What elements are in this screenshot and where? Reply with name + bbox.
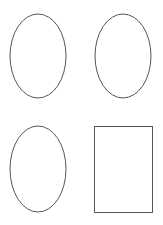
ellipse-top-right — [95, 14, 151, 98]
rectangle-bottom-right — [95, 127, 153, 213]
shapes-diagram — [0, 0, 163, 225]
ellipse-top-left — [10, 14, 66, 98]
ellipse-bottom-left — [10, 126, 66, 212]
